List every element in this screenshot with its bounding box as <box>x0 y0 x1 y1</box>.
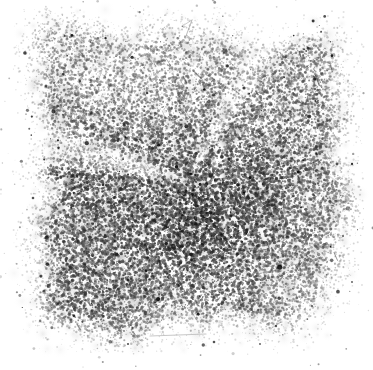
artwork-stage: charcoal-rubbing-texture charcoal-graphi… <box>0 0 373 370</box>
charcoal-texture-canvas <box>0 0 373 370</box>
